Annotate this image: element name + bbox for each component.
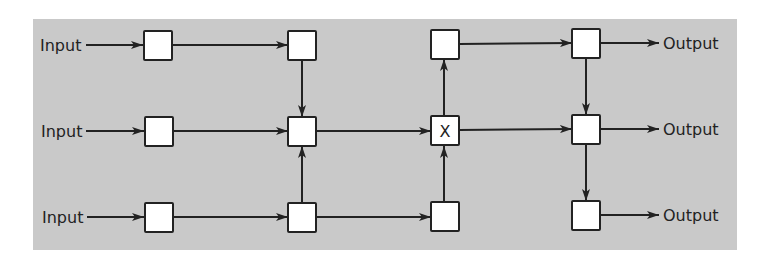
input-label-1: Input [40, 36, 81, 55]
node-r2c1 [145, 117, 173, 146]
output-label-1: Output [663, 34, 719, 53]
input-label-3: Input [42, 208, 83, 227]
node-r3c3 [431, 202, 459, 231]
node-r1c3 [431, 30, 459, 59]
node-r1c1 [144, 31, 172, 60]
output-label-2: Output [663, 120, 719, 139]
input-label-2: Input [41, 122, 82, 141]
node-x-label: X [440, 122, 451, 141]
node-r3c4 [572, 201, 600, 230]
node-r1c4 [572, 29, 600, 58]
arrow-r1c3-r1c4 [459, 43, 572, 44]
network-diagram: Input Input Input Output Output Output X [0, 0, 768, 258]
node-r3c1 [145, 203, 173, 232]
node-r1c2 [288, 31, 316, 60]
node-r3c2 [288, 203, 316, 232]
node-r2c4 [572, 115, 600, 144]
arrow-r2c3-r2c4 [459, 129, 572, 130]
output-label-3: Output [663, 206, 719, 225]
node-r2c2 [288, 117, 316, 146]
